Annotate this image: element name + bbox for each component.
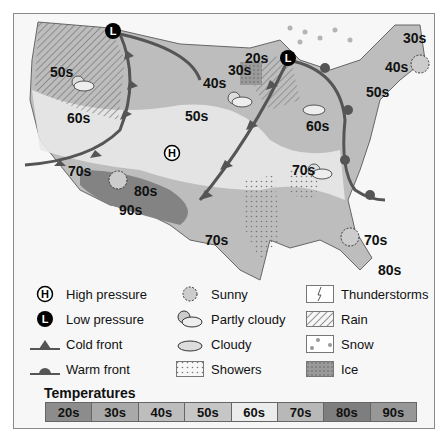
- svg-text:H: H: [168, 147, 176, 159]
- temperature-scale-cell: 60s: [232, 403, 278, 421]
- legend-label: Snow: [341, 337, 374, 352]
- map-temperature-label: 60s: [306, 118, 329, 134]
- legend: H High pressure L Low pressure Cold fron…: [30, 283, 430, 383]
- map-temperature-label: 80s: [378, 262, 401, 278]
- svg-text:L: L: [285, 52, 292, 64]
- legend-partly-cloudy: Partly cloudy: [175, 308, 285, 330]
- legend-rain: Rain: [305, 308, 368, 330]
- low-pressure-icon: L: [279, 49, 297, 67]
- legend-snow: Snow: [305, 333, 374, 355]
- map-temperature-label: 20s: [245, 50, 268, 66]
- legend-low-pressure: L Low pressure: [30, 308, 144, 330]
- legend-label: High pressure: [66, 287, 147, 302]
- sunny-icon: [341, 228, 359, 246]
- map-temperature-label: 60s: [67, 110, 90, 126]
- temperature-scale-cell: 80s: [324, 403, 370, 421]
- legend-label: Sunny: [211, 287, 248, 302]
- legend-label: Rain: [341, 312, 368, 327]
- map-temperature-label: 70s: [205, 232, 228, 248]
- temperature-scale-cell: 70s: [278, 403, 324, 421]
- cloudy-icon: [175, 335, 205, 353]
- low-pressure-icon: L: [104, 22, 122, 40]
- temperature-scale-cell: 30s: [92, 403, 138, 421]
- legend-warm-front: Warm front: [30, 358, 130, 380]
- legend-label: Showers: [211, 362, 262, 377]
- legend-cold-front: Cold front: [30, 333, 122, 355]
- map-temperature-label: 30s: [403, 30, 426, 46]
- high-pressure-icon: H: [30, 285, 60, 303]
- temperature-scale-cell: 50s: [185, 403, 231, 421]
- partly-cloudy-icon: [175, 310, 205, 328]
- ice-icon: [305, 360, 335, 378]
- map-temperature-label: 40s: [385, 59, 408, 75]
- temperature-scale-cell: 90s: [371, 403, 416, 421]
- map-temperature-label: 70s: [364, 232, 387, 248]
- showers-icon: [175, 360, 205, 378]
- map-temperature-label: 50s: [366, 84, 389, 100]
- temperatures-title: Temperatures: [44, 385, 136, 401]
- legend-label: Warm front: [66, 362, 130, 377]
- high-pressure-icon: H: [163, 144, 181, 162]
- legend-label: Ice: [341, 362, 358, 377]
- legend-label: Low pressure: [66, 312, 144, 327]
- temperature-scale-cell: 40s: [139, 403, 185, 421]
- legend-showers: Showers: [175, 358, 262, 380]
- snow-icon: [305, 335, 335, 353]
- sunny-icon: [109, 171, 127, 189]
- temperature-scale-cell: 20s: [46, 403, 92, 421]
- legend-high-pressure: H High pressure: [30, 283, 147, 305]
- map-temperature-label: 90s: [119, 202, 142, 218]
- legend-label: Partly cloudy: [211, 312, 285, 327]
- cold-front-icon: [30, 335, 60, 353]
- map-temperature-label: 70s: [292, 162, 315, 178]
- map-temperature-label: 50s: [185, 108, 208, 124]
- legend-label: Cloudy: [211, 337, 251, 352]
- legend-cloudy: Cloudy: [175, 333, 251, 355]
- map-temperature-label: 50s: [50, 64, 73, 80]
- legend-label: Cold front: [66, 337, 122, 352]
- legend-thunderstorms: Thunderstorms: [305, 283, 428, 305]
- svg-text:L: L: [42, 313, 49, 325]
- low-pressure-icon: L: [30, 310, 60, 328]
- legend-label: Thunderstorms: [341, 287, 428, 302]
- map-temperature-label: 70s: [68, 163, 91, 179]
- legend-ice: Ice: [305, 358, 358, 380]
- map-temperature-label: 40s: [203, 75, 226, 91]
- map-temperature-label: 80s: [134, 183, 157, 199]
- sunny-icon: [411, 55, 429, 73]
- rain-icon: [305, 310, 335, 328]
- svg-text:H: H: [41, 288, 49, 300]
- legend-sunny: Sunny: [175, 283, 248, 305]
- sunny-icon: [175, 285, 205, 303]
- temperature-scale: 20s30s40s50s60s70s80s90s: [45, 402, 417, 422]
- thunderstorms-icon: [305, 285, 335, 303]
- warm-front-icon: [30, 360, 60, 378]
- svg-text:L: L: [110, 25, 117, 37]
- cloudy-icon: [303, 105, 325, 115]
